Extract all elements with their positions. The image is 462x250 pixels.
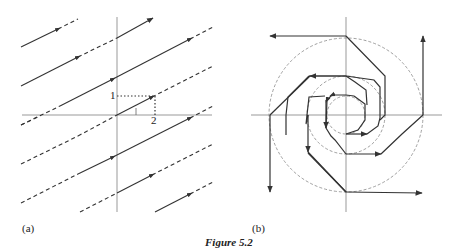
panel-b-label: (b) xyxy=(252,222,265,234)
panel-b xyxy=(251,17,442,212)
figure-canvas xyxy=(0,0,462,250)
panel-a-label: (a) xyxy=(22,222,34,234)
figure-caption: Figure 5.2 xyxy=(205,236,253,248)
panel-a xyxy=(21,17,213,212)
run-label: 2 xyxy=(151,114,157,126)
rise-label: 1 xyxy=(110,89,116,101)
